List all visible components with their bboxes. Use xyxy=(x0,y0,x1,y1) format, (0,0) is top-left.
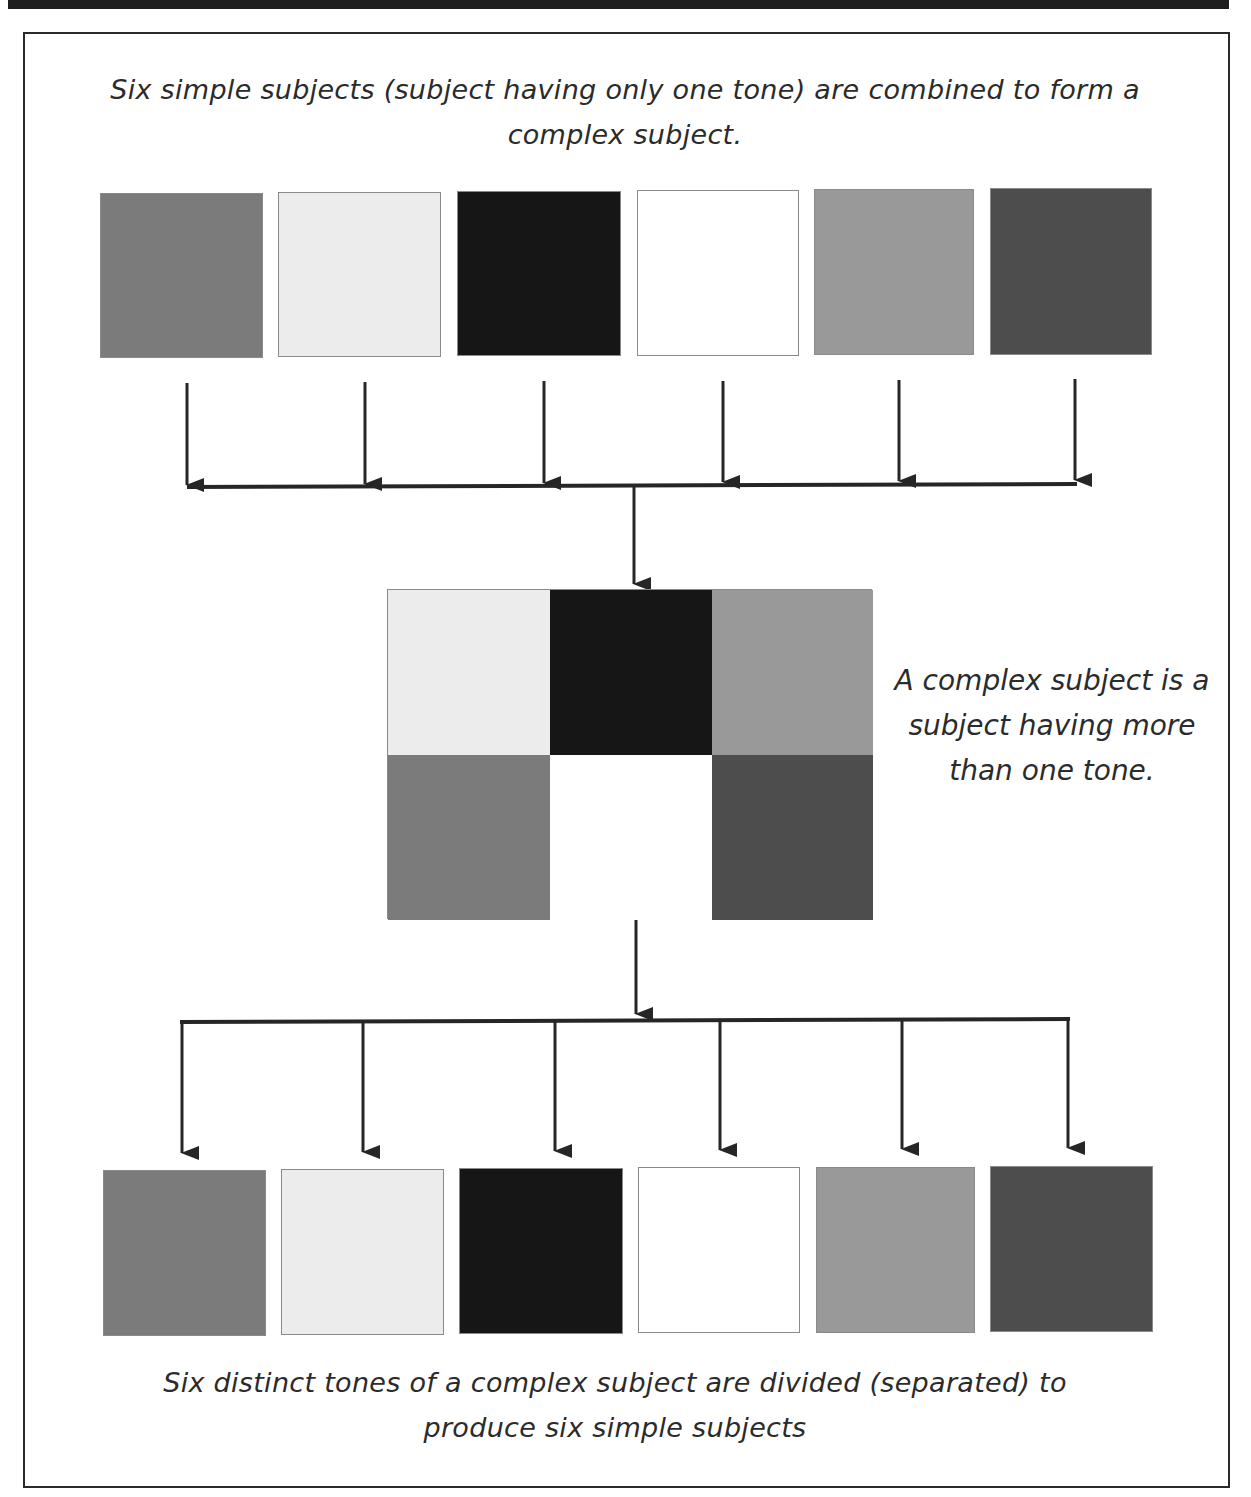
bottom-swatch-2 xyxy=(281,1169,444,1335)
complex-cell-5 xyxy=(550,755,712,920)
bottom-caption: Six distinct tones of a complex subject … xyxy=(120,1360,1110,1450)
bottom-caption-line-1: Six distinct tones of a complex subject … xyxy=(120,1360,1110,1405)
complex-cell-1 xyxy=(388,590,550,755)
combine-arrows xyxy=(187,379,1075,485)
bottom-swatch-3 xyxy=(459,1168,623,1334)
combine-bus-line xyxy=(187,484,1077,487)
bottom-swatch-6 xyxy=(990,1166,1153,1332)
complex-cell-6 xyxy=(712,755,873,920)
bottom-swatch-4 xyxy=(638,1167,800,1333)
complex-subject-note: A complex subject is a subject having mo… xyxy=(882,658,1222,793)
note-line-3: than one tone. xyxy=(882,748,1222,793)
complex-subject-grid xyxy=(387,589,872,919)
divide-bus-line xyxy=(180,1019,1070,1022)
bottom-swatch-1 xyxy=(103,1170,266,1336)
divide-arrows xyxy=(182,1020,1068,1153)
note-line-2: subject having more xyxy=(882,703,1222,748)
complex-cell-2 xyxy=(550,590,712,755)
bottom-swatch-5 xyxy=(816,1167,975,1333)
complex-cell-3 xyxy=(712,590,873,755)
bottom-caption-line-2: produce six simple subjects xyxy=(120,1405,1110,1450)
note-line-1: A complex subject is a xyxy=(882,658,1222,703)
complex-cell-4 xyxy=(388,755,550,920)
